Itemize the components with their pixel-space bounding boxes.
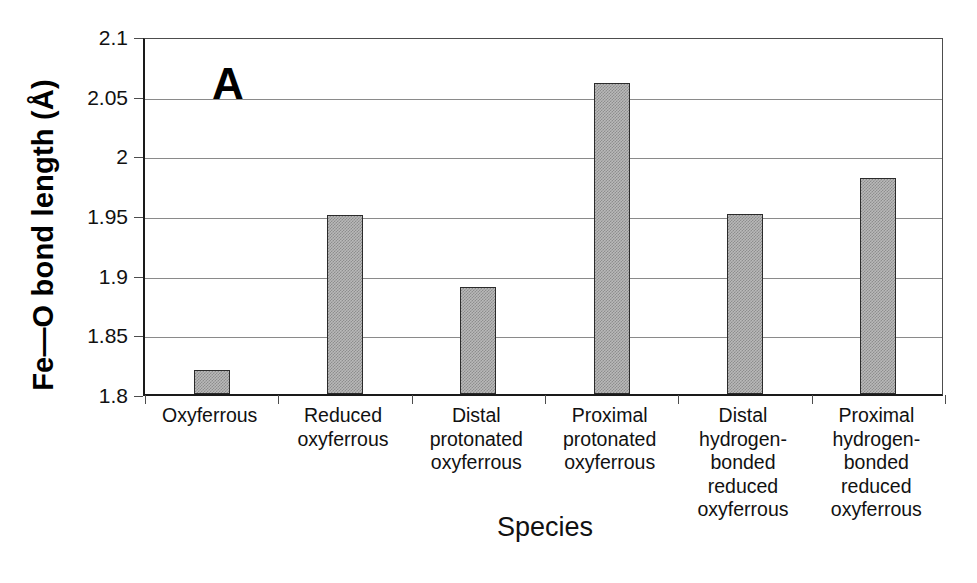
gridline: [145, 337, 942, 338]
x-axis-tick-mark: [545, 395, 546, 404]
y-axis-tick-mark: [134, 98, 143, 99]
bar: [860, 178, 896, 394]
plot-area: [143, 38, 943, 396]
y-axis-tick-mark: [134, 336, 143, 337]
y-axis-tick-mark: [134, 157, 143, 158]
x-axis-category-label-line: Reduced: [279, 404, 406, 428]
y-axis-tick-mark: [134, 277, 143, 278]
x-axis-category-label-line: Proximal: [546, 404, 673, 428]
x-axis-category-label: Reducedoxyferrous: [276, 404, 409, 524]
gridline: [145, 278, 942, 279]
gridline: [145, 218, 942, 219]
y-axis-tick-label: 2: [38, 146, 128, 167]
y-axis-tick-label: 2.1: [38, 27, 128, 48]
x-axis-category-label-line: oxyferrous: [413, 451, 540, 475]
x-axis-category-label-line: Proximal: [813, 404, 940, 428]
x-axis-category-label-line: oxyferrous: [679, 498, 806, 522]
y-axis-tick-label: 2.05: [38, 87, 128, 108]
x-axis-category-label-line: protonated: [546, 428, 673, 452]
x-axis-category-label-line: Distal: [679, 404, 806, 428]
x-axis-category-label-line: protonated: [413, 428, 540, 452]
x-axis-category-label-line: reduced: [813, 475, 940, 499]
x-axis-category-label-line: bonded: [813, 451, 940, 475]
bar: [327, 215, 363, 394]
bar: [194, 370, 230, 394]
panel-label-a: A: [212, 62, 244, 106]
x-axis-tick-mark: [812, 395, 813, 404]
x-axis-category-label-line: Distal: [413, 404, 540, 428]
y-axis-tick-label: 1.8: [38, 385, 128, 406]
y-axis-tick-label: 1.85: [38, 325, 128, 346]
x-axis-category-label: Distalprotonatedoxyferrous: [410, 404, 543, 524]
x-axis-tick-mark: [945, 395, 946, 404]
x-axis-title: Species: [400, 512, 690, 543]
bar: [594, 83, 630, 394]
x-axis-category-label: Proximalprotonatedoxyferrous: [543, 404, 676, 524]
gridline: [145, 158, 942, 159]
x-axis-category-label: Distalhydrogen-bondedreducedoxyferrous: [676, 404, 809, 524]
x-axis-category-label-line: hydrogen-: [813, 428, 940, 452]
gridline: [145, 99, 942, 100]
x-axis-tick-mark: [145, 395, 146, 404]
y-axis-tick-mark: [134, 38, 143, 39]
x-axis-category-label-line: bonded: [679, 451, 806, 475]
x-axis-category-label: Proximalhydrogen-bondedreducedoxyferrous: [810, 404, 943, 524]
x-axis-category-label-line: hydrogen-: [679, 428, 806, 452]
bar: [727, 214, 763, 394]
y-axis-tick-mark: [134, 396, 143, 397]
x-axis-category-label-line: oxyferrous: [813, 498, 940, 522]
x-axis-category-label-line: reduced: [679, 475, 806, 499]
bar: [460, 287, 496, 394]
x-axis-tick-mark: [678, 395, 679, 404]
x-axis-category-label: Oxyferrous: [143, 404, 276, 524]
y-axis-tick-label: 1.95: [38, 206, 128, 227]
x-axis-tick-mark: [278, 395, 279, 404]
x-axis-category-labels: OxyferrousReducedoxyferrousDistalprotona…: [143, 404, 943, 524]
x-axis-category-label-line: oxyferrous: [279, 428, 406, 452]
x-axis-category-label-line: oxyferrous: [546, 451, 673, 475]
x-axis-tick-mark: [412, 395, 413, 404]
y-axis-tick-label: 1.9: [38, 266, 128, 287]
bar-chart-figure: Fe—O bond length (Å) 2.12.0521.951.91.85…: [0, 0, 977, 583]
x-axis-category-label-line: Oxyferrous: [146, 404, 273, 428]
y-axis-tick-mark: [134, 217, 143, 218]
